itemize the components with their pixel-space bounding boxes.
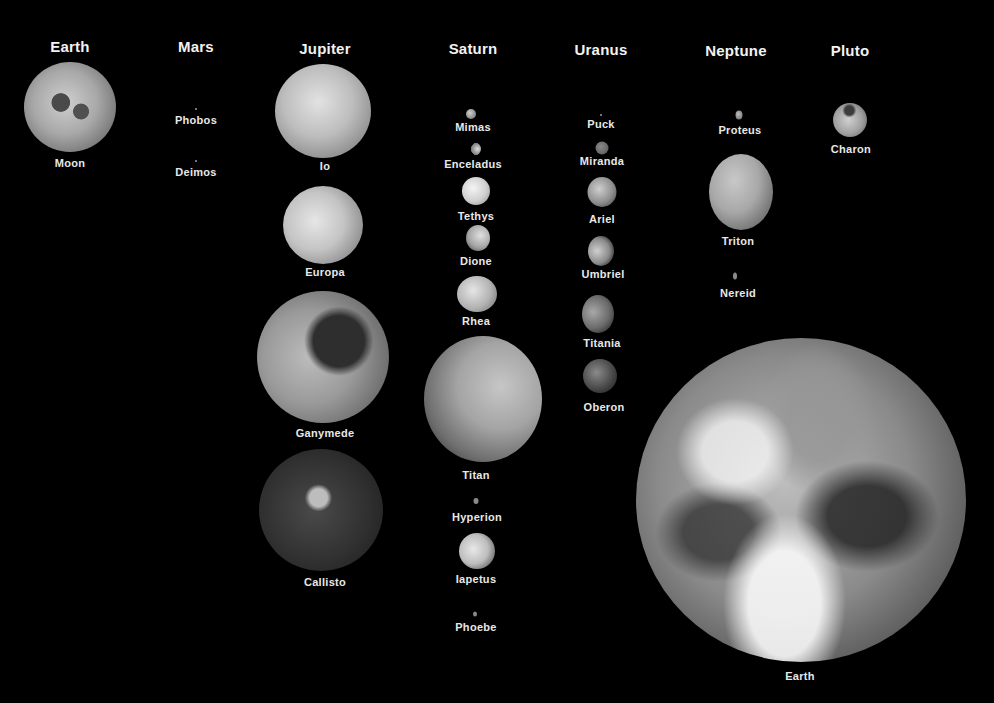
io-image xyxy=(275,64,371,158)
label-dione: Dione xyxy=(460,255,492,267)
label-io: Io xyxy=(320,160,330,172)
phoebe-image xyxy=(473,612,477,617)
label-puck: Puck xyxy=(587,118,615,130)
tethys-image xyxy=(462,177,490,205)
label-proteus: Proteus xyxy=(718,124,761,136)
label-charon: Charon xyxy=(831,143,871,155)
heading-uranus: Uranus xyxy=(575,41,628,58)
hyperion-image xyxy=(474,498,479,504)
enceladus-image xyxy=(469,143,481,156)
label-deimos: Deimos xyxy=(175,166,217,178)
label-phoebe: Phoebe xyxy=(455,621,497,633)
titan-image xyxy=(424,336,542,462)
label-ganymede: Ganymede xyxy=(296,427,355,439)
label-earth-reference: Earth xyxy=(785,670,815,682)
iapetus-image xyxy=(459,533,495,569)
label-moon: Moon xyxy=(55,157,86,169)
label-triton: Triton xyxy=(722,235,754,247)
earth-reference-image xyxy=(636,338,966,662)
label-mimas: Mimas xyxy=(455,121,491,133)
label-hyperion: Hyperion xyxy=(452,511,502,523)
label-enceladus: Enceladus xyxy=(444,158,502,170)
proteus-image xyxy=(736,111,743,120)
label-callisto: Callisto xyxy=(304,576,346,588)
deimos-image xyxy=(195,160,197,162)
label-titania: Titania xyxy=(583,337,620,349)
label-nereid: Nereid xyxy=(720,287,756,299)
callisto-image xyxy=(259,449,383,571)
label-phobos: Phobos xyxy=(175,114,217,126)
titania-image xyxy=(582,295,614,333)
mimas-image xyxy=(466,109,476,119)
heading-pluto: Pluto xyxy=(831,42,870,59)
heading-mars: Mars xyxy=(178,38,214,55)
label-tethys: Tethys xyxy=(458,210,494,222)
rhea-image xyxy=(457,276,497,312)
heading-saturn: Saturn xyxy=(449,40,498,57)
heading-earth: Earth xyxy=(50,38,89,55)
label-europa: Europa xyxy=(305,266,345,278)
heading-jupiter: Jupiter xyxy=(299,40,350,57)
dione-image xyxy=(466,225,490,251)
moon-image xyxy=(24,62,116,152)
ariel-image xyxy=(588,177,617,207)
label-ariel: Ariel xyxy=(589,213,615,225)
oberon-image xyxy=(583,359,617,393)
label-rhea: Rhea xyxy=(462,315,490,327)
label-titan: Titan xyxy=(462,469,490,481)
label-miranda: Miranda xyxy=(580,155,624,167)
europa-image xyxy=(283,186,363,264)
puck-image xyxy=(600,114,602,116)
umbriel-image xyxy=(588,236,614,266)
label-iapetus: Iapetus xyxy=(456,573,497,585)
miranda-image xyxy=(596,142,609,155)
ganymede-image xyxy=(257,291,389,423)
phobos-image xyxy=(195,108,197,110)
label-oberon: Oberon xyxy=(584,401,625,413)
triton-image xyxy=(709,154,773,230)
charon-image xyxy=(833,103,867,137)
heading-neptune: Neptune xyxy=(705,42,766,59)
label-umbriel: Umbriel xyxy=(581,268,624,280)
nereid-image xyxy=(733,273,737,280)
